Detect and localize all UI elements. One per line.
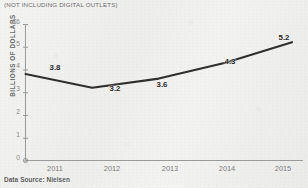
data-point-label: 3.2 bbox=[104, 84, 126, 93]
data-source-note: Data Source: Nielsen bbox=[4, 176, 70, 183]
x-tick-label: 2015 bbox=[263, 164, 303, 173]
x-tick-label: 2014 bbox=[207, 164, 247, 173]
data-point-label: 3.8 bbox=[44, 63, 66, 72]
chart-figure: (NOT INCLUDING DIGITAL OUTLETS) BILLIONS… bbox=[0, 0, 308, 188]
data-point-label: 4.3 bbox=[219, 57, 241, 66]
x-tick-label: 2013 bbox=[150, 164, 190, 173]
x-tick-label: 2012 bbox=[92, 164, 132, 173]
plot-area bbox=[0, 0, 308, 188]
data-point-label: 3.6 bbox=[151, 80, 173, 89]
x-tick-label: 2011 bbox=[35, 164, 75, 173]
data-point-label: 5.2 bbox=[273, 33, 295, 42]
